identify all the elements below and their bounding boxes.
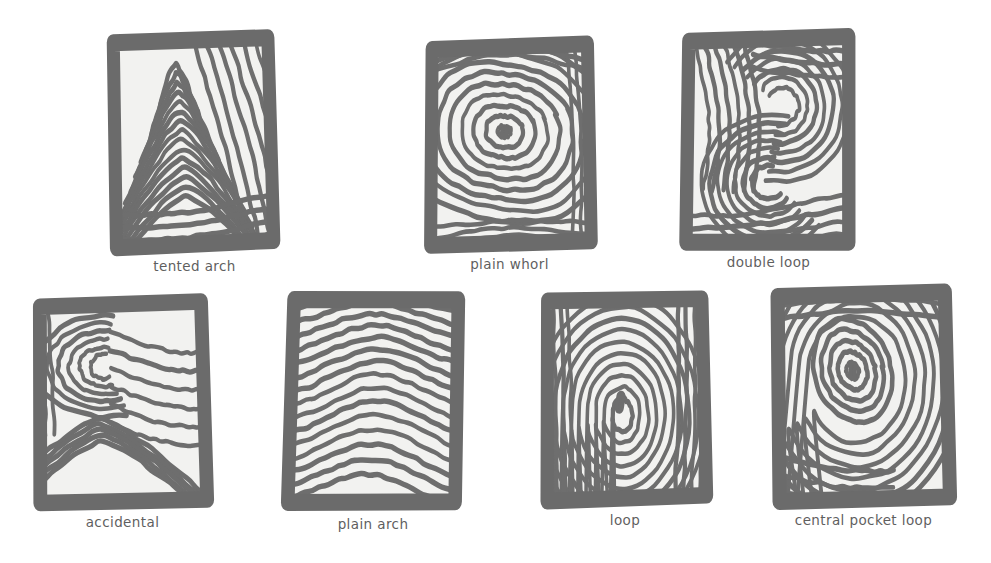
fingerprint-card-tented-arch [110,36,278,252]
card-label-double-loop: double loop [685,254,852,271]
fingerprint-diagram-plain-whorl [427,39,593,249]
card-label-central-pocket-loop: central pocket loop [775,512,952,529]
pattern-core-mark [502,128,507,135]
fingerprint-card-plain-arch [285,293,461,510]
pattern-core-mark [850,363,856,378]
fingerprint-diagram-double-loop [684,33,852,246]
fingerprint-diagram-central-pocket-loop [774,289,953,503]
fingerprint-diagram-accidental [34,296,211,506]
fingerprint-card-double-loop [684,33,852,246]
card-label-plain-arch: plain arch [288,516,458,533]
card-label-plain-whorl: plain whorl [428,256,591,273]
card-label-accidental: accidental [36,514,209,531]
pattern-core-mark [616,392,624,412]
fingerprint-card-plain-whorl [427,39,593,249]
fingerprint-card-central-pocket-loop [774,289,953,503]
card-label-tented-arch: tented arch [113,258,276,275]
fingerprint-card-loop [542,293,708,503]
card-label-loop: loop [543,512,707,529]
fingerprint-pattern-board: tented archplain whorldouble loopacciden… [0,0,991,563]
fingerprint-diagram-tented-arch [110,36,278,252]
fingerprint-card-accidental [34,296,211,506]
fingerprint-diagram-loop [542,293,708,503]
fingerprint-diagram-plain-arch [285,293,461,510]
